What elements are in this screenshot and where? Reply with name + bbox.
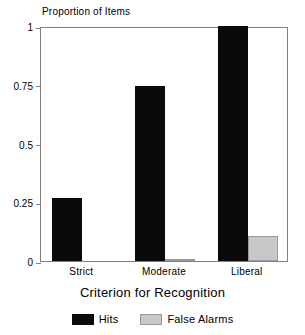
x-axis-tick-label: Liberal (231, 266, 262, 277)
y-axis-tick-label: 0.5 (19, 141, 36, 151)
y-axis-tick-label: 0 (27, 258, 36, 268)
chart-legend: HitsFalse Alarms (0, 313, 305, 325)
bar-strict-hits (52, 198, 82, 261)
x-axis-tick-label: Moderate (142, 266, 186, 277)
y-axis-tick: 0.25 (14, 199, 41, 209)
bar-group (135, 28, 195, 261)
bar-moderate-hits (135, 86, 165, 261)
y-axis-tick: 0.75 (14, 82, 41, 92)
bar-liberal-hits (218, 26, 248, 261)
y-axis-tick-label: 0.75 (14, 82, 36, 92)
y-axis-tick: 0.5 (19, 141, 41, 151)
legend-swatch-false-alarms (140, 314, 162, 325)
bar-group (52, 28, 112, 261)
y-axis-tick-label: 1 (27, 23, 36, 33)
bar-liberal-false-alarms (248, 236, 278, 261)
legend-label: False Alarms (167, 313, 233, 325)
y-axis-tick: 1 (27, 23, 41, 33)
y-axis-label: Proportion of Items (42, 6, 130, 17)
x-axis-label: Criterion for Recognition (0, 285, 305, 300)
y-axis-tick: 0 (27, 258, 41, 268)
plot-area: 00.250.50.751 (40, 27, 288, 262)
bar-moderate-false-alarms (165, 259, 195, 261)
legend-swatch-hits (72, 314, 94, 325)
legend-label: Hits (99, 313, 119, 325)
y-axis-tick-mark (36, 263, 41, 264)
x-axis-tick-label: Strict (69, 266, 93, 277)
y-axis-tick-label: 0.25 (14, 199, 36, 209)
legend-item-false-alarms: False Alarms (140, 313, 233, 325)
bar-group (218, 28, 278, 261)
bar-chart-figure: Proportion of Items 00.250.50.751 Strict… (0, 0, 305, 335)
bars-layer (41, 28, 287, 261)
legend-item-hits: Hits (72, 313, 119, 325)
